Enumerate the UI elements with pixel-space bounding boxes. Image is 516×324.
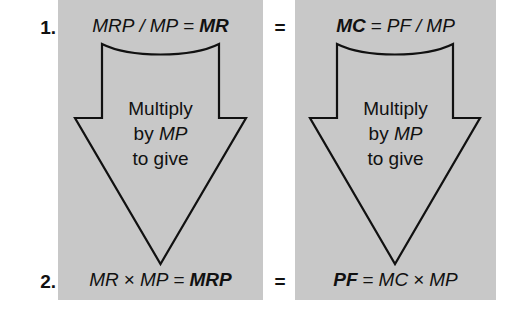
right-arrow-text-line-2-text: by bbox=[369, 123, 394, 144]
right-arrow-text-line-2-italic: MP bbox=[394, 123, 423, 144]
right-bottom-result: PF bbox=[333, 269, 357, 290]
right-arrow-text-line-2: by MP bbox=[295, 121, 496, 146]
right-arrow-text-line-1: Multiply bbox=[295, 96, 496, 121]
right-top-formula: MC=PF/MP bbox=[295, 15, 496, 37]
left-top-denominator: MP bbox=[150, 15, 179, 36]
left-bottom-second-term: MP bbox=[140, 269, 169, 290]
right-arrow-text-line-3: to give bbox=[295, 146, 496, 171]
left-arrow-text-line-2-text: by bbox=[134, 123, 159, 144]
left-bottom-equals: = bbox=[173, 269, 184, 290]
left-arrow-text-line-2-italic: MP bbox=[159, 123, 188, 144]
right-bottom-first-term: MC bbox=[379, 269, 409, 290]
right-arrow-text: Multiply by MP to give bbox=[295, 96, 496, 171]
right-top-divide-operator: / bbox=[416, 15, 421, 36]
row-number-1: 1. bbox=[20, 17, 56, 39]
diagram-canvas: 1. 2. = = MRP/MP=MR Multiply by MP to gi… bbox=[0, 0, 516, 324]
left-bottom-result: MRP bbox=[190, 269, 232, 290]
right-top-denominator: MP bbox=[426, 15, 455, 36]
equals-connector-top: = bbox=[266, 17, 294, 39]
left-arrow-text-line-2: by MP bbox=[58, 121, 263, 146]
left-arrow-text-line-3: to give bbox=[58, 146, 263, 171]
left-arrow-text-line-1: Multiply bbox=[58, 96, 263, 121]
panel-right: MC=PF/MP Multiply by MP to give PF=MC×MP bbox=[295, 0, 496, 300]
right-bottom-second-term: MP bbox=[429, 269, 458, 290]
left-bottom-first-term: MR bbox=[89, 269, 119, 290]
right-bottom-equals: = bbox=[363, 269, 374, 290]
right-bottom-times-operator: × bbox=[413, 269, 424, 290]
right-bottom-formula: PF=MC×MP bbox=[295, 269, 496, 291]
left-top-result: MR bbox=[199, 15, 229, 36]
left-top-numerator: MRP bbox=[92, 15, 134, 36]
left-top-equals: = bbox=[183, 15, 194, 36]
left-bottom-times-operator: × bbox=[124, 269, 135, 290]
row-number-2: 2. bbox=[20, 271, 56, 293]
left-top-divide-operator: / bbox=[139, 15, 144, 36]
left-bottom-formula: MR×MP=MRP bbox=[58, 269, 263, 291]
panel-left: MRP/MP=MR Multiply by MP to give MR×MP=M… bbox=[58, 0, 263, 300]
right-top-equals: = bbox=[371, 15, 382, 36]
left-top-formula: MRP/MP=MR bbox=[58, 15, 263, 37]
equals-connector-bottom: = bbox=[266, 271, 294, 293]
left-arrow-text: Multiply by MP to give bbox=[58, 96, 263, 171]
right-top-result: MC bbox=[336, 15, 366, 36]
right-top-numerator: PF bbox=[387, 15, 411, 36]
